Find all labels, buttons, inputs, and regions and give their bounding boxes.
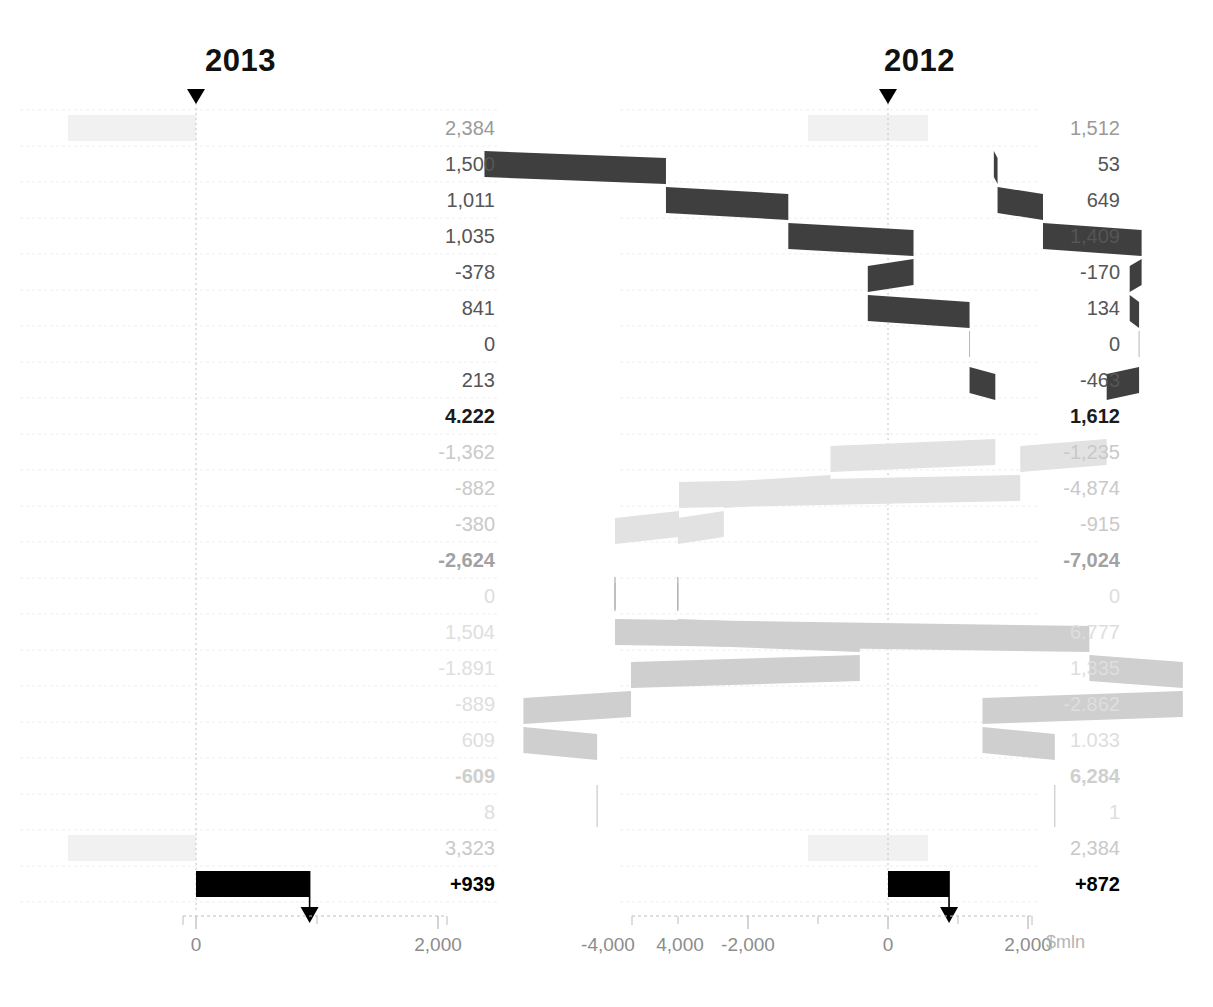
value-label: 1.033: [1000, 722, 1120, 758]
value-label: 134: [1000, 290, 1120, 326]
value-label: -4,874: [1000, 470, 1120, 506]
value-label: 3,323: [375, 830, 495, 866]
axis-tick-label: 2,000: [414, 934, 462, 956]
value-label: 6.777: [1000, 614, 1120, 650]
waterfall-bar: [666, 187, 788, 220]
value-label: -170: [1000, 254, 1120, 290]
value-label: 1,512: [1000, 110, 1120, 146]
waterfall-bar: [523, 691, 631, 724]
axis-tick-label: -4,000: [581, 934, 635, 956]
value-label: 53: [1000, 146, 1120, 182]
value-label: -1.891: [375, 650, 495, 686]
value-label: -380: [375, 506, 495, 542]
value-label: +939: [375, 866, 495, 902]
waterfall-bar: [788, 223, 913, 256]
waterfall-bar: [678, 511, 724, 544]
value-label: -609: [375, 758, 495, 794]
value-label: 0: [375, 578, 495, 614]
waterfall-bar: [868, 295, 970, 328]
value-label: -1,362: [375, 434, 495, 470]
waterfall-bar: [831, 439, 996, 472]
axis-tick-label: 0: [883, 934, 894, 956]
start-marker-triangle: [187, 89, 205, 104]
value-label: 2,384: [1000, 830, 1120, 866]
value-label: 1,504: [375, 614, 495, 650]
value-label: -2.862: [1000, 686, 1120, 722]
value-label: 4.222: [375, 398, 495, 434]
value-label: -1,235: [1000, 434, 1120, 470]
waterfall-bar: [484, 151, 666, 184]
value-label: 0: [1000, 578, 1120, 614]
value-label: 609: [375, 722, 495, 758]
waterfall-bar: [631, 655, 860, 688]
waterfall-bar: [970, 367, 996, 400]
value-label: +872: [1000, 866, 1120, 902]
waterfall-bar: [523, 727, 597, 760]
value-label: 1,035: [375, 218, 495, 254]
waterfall-bar: [994, 151, 998, 184]
value-label: -889: [375, 686, 495, 722]
value-label: 1: [1000, 794, 1120, 830]
waterfall-bar: [868, 259, 914, 292]
waterfall-chart-canvas: 2013 2012 2,3841,5001,0111,035-378841021…: [0, 0, 1213, 1007]
waterfall-bar: [1130, 259, 1142, 292]
axis-tick-label: 0: [191, 934, 202, 956]
value-label: 213: [375, 362, 495, 398]
value-column-2012: 1,512536491,409-1701340-4631,612-1,235-4…: [1000, 110, 1120, 902]
value-label: -882: [375, 470, 495, 506]
value-column-2013: 2,3841,5001,0111,035-37884102134.222-1,3…: [375, 110, 495, 902]
value-label: 6,284: [1000, 758, 1120, 794]
axis-tick-label: -2,000: [721, 934, 775, 956]
value-label: 841: [375, 290, 495, 326]
value-label: 0: [1000, 326, 1120, 362]
value-label: 2,384: [375, 110, 495, 146]
value-label: 8: [375, 794, 495, 830]
value-label: -7,024: [1000, 542, 1120, 578]
value-label: 1,612: [1000, 398, 1120, 434]
value-label: -2,624: [375, 542, 495, 578]
value-label: 1,011: [375, 182, 495, 218]
value-label: 649: [1000, 182, 1120, 218]
axis-tick-label: 4,000: [656, 934, 704, 956]
start-marker-triangle: [879, 89, 897, 104]
waterfall-bar: [679, 475, 1020, 508]
value-label: -378: [375, 254, 495, 290]
waterfall-bar: [1130, 295, 1139, 328]
value-label: -915: [1000, 506, 1120, 542]
value-label: -463: [1000, 362, 1120, 398]
value-label: 1,500: [375, 146, 495, 182]
axis-tick-label: 2,000: [1004, 934, 1052, 956]
value-label: 0: [375, 326, 495, 362]
axis-unit-label: $mln: [1046, 932, 1085, 953]
value-label: 1,335: [1000, 650, 1120, 686]
value-label: 1,409: [1000, 218, 1120, 254]
waterfall-bar: [615, 511, 679, 544]
